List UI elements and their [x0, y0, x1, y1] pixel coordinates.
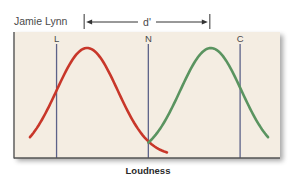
- arrowhead-left-icon: [86, 20, 92, 25]
- arrowhead-right-icon: [202, 20, 208, 25]
- criterion-label-l: L: [54, 33, 59, 44]
- signal-detection-chart: LNC Jamie Lynn d' Loudness: [0, 0, 293, 180]
- dprime-annotation: d': [84, 14, 210, 29]
- chart-title: Jamie Lynn: [14, 15, 67, 27]
- x-axis-label: Loudness: [126, 165, 171, 176]
- criterion-label-n: N: [145, 33, 152, 44]
- criterion-label-c: C: [237, 33, 244, 44]
- dprime-label: d': [143, 16, 151, 28]
